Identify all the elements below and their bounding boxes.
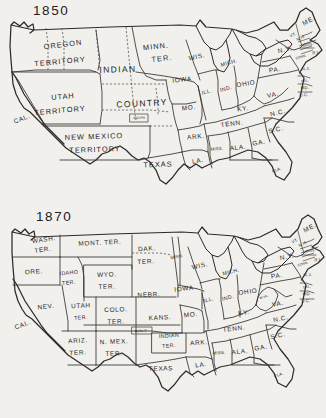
map-label-connecticut: CONN.: [297, 260, 309, 267]
map-label-indian-small: PUBLIC: [135, 328, 148, 333]
arkansas-south-border-1870: [186, 357, 212, 359]
map-label-new-mexico-territory: NEW MEXICO: [65, 131, 124, 142]
map-figure-1870: 1870: [0, 205, 326, 418]
map-label-dakota-territory-2: TER.: [137, 257, 155, 265]
pennsylvania-north-border-1870: [264, 263, 292, 269]
georgia-west-border-1870: [250, 335, 254, 363]
missouri-border-1850: [172, 104, 178, 130]
map-label-tennessee: TENN.: [222, 323, 245, 333]
lake-erie-ontario-1850: [250, 40, 292, 66]
utah-east-border-1850: [100, 74, 102, 124]
map-label-maryland: MD.: [301, 85, 310, 91]
pacific-coast-1870: [13, 279, 65, 351]
map-label-idaho-territory: IDAHO: [59, 268, 78, 276]
map-label-new-jersey: N.J.: [304, 272, 313, 278]
nevada-east-border-1870: [62, 285, 68, 331]
map-label-oregon-territory-2: TERRITORY: [34, 55, 86, 68]
kansas-east-border-1870: [180, 305, 182, 333]
map-label-new-york: N.Y.: [277, 44, 293, 54]
map-label-montana-territory: MONT. TER.: [78, 238, 121, 247]
map-label-utah-territory-2: TERRITORY: [34, 104, 86, 117]
map-label-missouri: MO.: [184, 310, 199, 318]
missouri-east-border-1870: [202, 311, 204, 333]
map-figure-1850: 1850: [0, 0, 326, 205]
map-label-indian-country: INDIAN: [99, 64, 136, 75]
wisconsin-south-border-1870: [200, 279, 220, 283]
map-label-delaware: DEL.: [303, 285, 311, 290]
map-label-indiana: IND.: [221, 293, 234, 302]
map-label-illinois: ILL.: [203, 295, 215, 303]
map-label-texas: TEXAS: [149, 364, 174, 372]
map-label-iowa: IOWA: [174, 284, 194, 293]
missouri-south-border-1850: [178, 124, 204, 130]
map-label-florida: FLA.: [271, 165, 282, 173]
map-label-wyoming-territory: WYO.: [97, 270, 117, 278]
map-label-michigan: MICH.: [220, 57, 238, 67]
map-label-indiana: IND.: [219, 84, 232, 93]
map-label-ohio: OHIO: [236, 78, 256, 88]
map-label-minnesota-territory-2: TER.: [151, 53, 173, 64]
map-label-iowa: IOWA: [172, 75, 192, 84]
map-label-indian-small: INDIAN: [133, 115, 146, 120]
map-label-pennsylvania: PA.: [270, 271, 283, 280]
map-label-new-mexico-territory: N. MEX.: [100, 337, 129, 345]
map-label-florida: FLA.: [273, 370, 284, 378]
map-label-new-mexico-territory-2: TERRITORY: [69, 144, 121, 155]
map-label-west-virginia: W.VA.: [259, 294, 269, 300]
arkansas-border-1850: [178, 130, 182, 152]
great-lakes-1850: [196, 26, 232, 50]
map-label-indian-country-2: COUNTRY: [116, 97, 168, 110]
minnesota-west-border-1870: [178, 237, 180, 285]
great-lakes-1870: [198, 233, 234, 257]
map-label-arizona-territory: ARIZ.: [68, 336, 88, 344]
map-label-oregon: ORE.: [25, 267, 44, 275]
map-label-wyoming-territory-2: TER.: [98, 282, 116, 290]
map-label-nebraska: NEBR.: [137, 290, 160, 298]
map-label-district-of-columbia: D.C.: [299, 92, 309, 98]
map-label-wisconsin: WIS.: [191, 260, 209, 270]
map-label-minnesota-territory: MINN.: [143, 41, 170, 53]
texas-north-border-1850: [148, 152, 182, 158]
map-label-utah-territory-2: TER.: [74, 314, 88, 321]
map-label-indian-territory: INDIAN: [159, 332, 180, 339]
map-label-illinois: ILL.: [201, 87, 213, 95]
map-label-new-mexico-territory-2: TER.: [105, 349, 123, 357]
map-label-alabama: ALA.: [229, 143, 246, 152]
map-label-minnesota: MINN.: [170, 253, 184, 260]
indian-country-dash-d-1850: [102, 110, 170, 112]
map-label-georgia: GA.: [254, 343, 268, 352]
map-1870-drawing: 1870: [0, 205, 326, 418]
map-label-washington-territory-2: TER.: [34, 245, 52, 254]
map-label-louisiana: LA.: [195, 360, 208, 369]
lake-erie-ontario-1870: [252, 247, 294, 273]
map-label-indian-territory-2: TER.: [162, 342, 176, 349]
map-label-dakota-territory: DAK.: [138, 244, 156, 252]
map-label-alabama: ALA.: [231, 347, 248, 355]
map-label-delaware: DEL.: [301, 79, 309, 84]
map-label-south-carolina: S.C.: [270, 330, 286, 340]
mississippi-west-border-1870: [212, 343, 216, 371]
utah-north-border-1850: [12, 72, 100, 74]
map-label-kentucky: KY.: [238, 308, 250, 317]
minnesota-south-border-1850: [136, 72, 176, 78]
map-label-kentucky: KY.: [237, 104, 249, 113]
virginia-south-border-1850: [264, 98, 294, 106]
ohio-east-border-1850: [254, 54, 262, 96]
map-label-district-of-columbia: D.C.: [301, 298, 311, 304]
map-1850-year-title: 1850: [33, 3, 69, 18]
map-label-south-carolina: S.C.: [268, 124, 284, 134]
pennsylvania-north-border-1850: [262, 56, 290, 62]
map-label-maryland: MD.: [303, 291, 312, 297]
map-label-arkansas: ARK.: [187, 132, 205, 141]
map-label-ohio: OHIO: [238, 286, 258, 296]
map-label-colorado-territory: COLO.: [104, 305, 128, 313]
map-label-colorado-territory-2: TER.: [107, 317, 125, 325]
virginia-south-border-1870: [266, 305, 296, 313]
us-territorial-maps-page: 1850: [0, 0, 326, 418]
map-label-california: CAL.: [14, 318, 32, 330]
map-label-mississippi: MISS.: [210, 145, 223, 151]
iowa-border-1850: [166, 80, 196, 104]
map-1870-year-title: 1870: [36, 209, 72, 224]
map-label-oregon-territory: OREGON: [43, 38, 83, 52]
map-label-connecticut: CONN.: [295, 53, 307, 60]
